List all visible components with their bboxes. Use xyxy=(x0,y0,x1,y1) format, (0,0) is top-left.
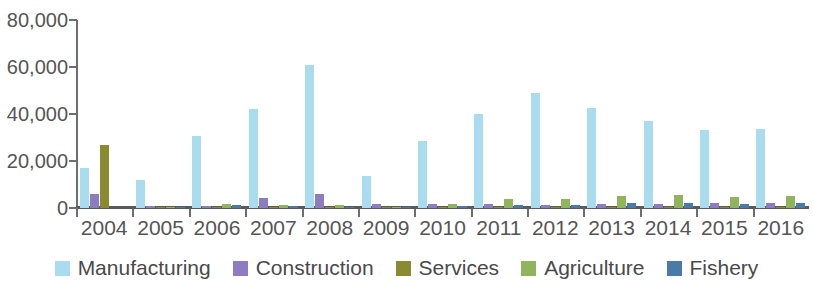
legend-swatch-icon xyxy=(521,261,536,276)
x-tick-label: 2007 xyxy=(250,216,297,240)
x-tick-mark xyxy=(471,209,473,217)
x-tick-mark xyxy=(640,209,642,217)
legend-label: Manufacturing xyxy=(78,256,211,280)
bar xyxy=(627,203,636,208)
bar xyxy=(551,207,560,208)
bar-group xyxy=(192,0,241,208)
bar xyxy=(664,207,673,208)
bar xyxy=(372,204,381,208)
bar xyxy=(345,207,354,208)
y-tick-label: 60,000 xyxy=(7,56,68,79)
bar-chart: 020,00040,00060,00080,000 20042005200620… xyxy=(0,0,813,284)
x-tick-mark xyxy=(76,209,78,217)
bar xyxy=(730,197,739,209)
bar-group xyxy=(531,0,580,208)
bar xyxy=(756,129,765,208)
legend-swatch-icon xyxy=(55,261,70,276)
bar xyxy=(766,203,775,208)
x-tick-label: 2004 xyxy=(81,216,128,240)
legend-item[interactable]: Agriculture xyxy=(521,256,644,280)
y-tick-mark xyxy=(69,66,77,68)
bar xyxy=(100,145,109,208)
bar xyxy=(80,168,89,208)
bar-group xyxy=(80,0,129,208)
bar xyxy=(494,207,503,208)
bar xyxy=(458,206,467,208)
legend-item[interactable]: Services xyxy=(396,256,500,280)
x-tick-mark xyxy=(302,209,304,217)
legend-item[interactable]: Fishery xyxy=(667,256,759,280)
bar xyxy=(428,204,437,208)
bar xyxy=(362,176,371,208)
x-tick-label: 2005 xyxy=(137,216,184,240)
x-tick-mark xyxy=(527,209,529,217)
bar xyxy=(740,204,749,208)
bars-layer xyxy=(76,0,809,208)
bar-group xyxy=(644,0,693,208)
x-tick-label: 2008 xyxy=(306,216,353,240)
bar xyxy=(222,204,231,208)
bar xyxy=(700,130,709,208)
bar xyxy=(315,194,324,208)
bar xyxy=(561,199,570,208)
bar xyxy=(720,207,729,208)
bar xyxy=(571,205,580,208)
bar xyxy=(776,207,785,208)
bar-group xyxy=(587,0,636,208)
x-tick-label: 2016 xyxy=(757,216,804,240)
bar xyxy=(474,114,483,208)
y-axis: 020,00040,00060,00080,000 xyxy=(0,0,76,250)
bar xyxy=(617,196,626,208)
x-tick-label: 2011 xyxy=(476,216,521,240)
bar xyxy=(597,204,606,208)
bar-group xyxy=(474,0,523,208)
x-tick-mark xyxy=(132,209,134,217)
bar-group xyxy=(418,0,467,208)
y-tick-mark xyxy=(69,19,77,21)
bar xyxy=(786,196,795,208)
bar xyxy=(249,109,258,208)
bar xyxy=(484,204,493,208)
legend-label: Agriculture xyxy=(544,256,644,280)
bar-group xyxy=(362,0,411,208)
x-tick-label: 2013 xyxy=(588,216,635,240)
bar xyxy=(448,204,457,208)
bar xyxy=(654,204,663,208)
legend-label: Services xyxy=(419,256,500,280)
bar xyxy=(587,108,596,208)
x-tick-mark xyxy=(414,209,416,217)
bar xyxy=(176,207,185,208)
bar-group xyxy=(249,0,298,208)
bar xyxy=(438,207,447,208)
x-tick-label: 2010 xyxy=(419,216,466,240)
bar xyxy=(382,207,391,208)
bar xyxy=(504,199,513,208)
x-tick-mark xyxy=(358,209,360,217)
legend-item[interactable]: Construction xyxy=(233,256,374,280)
legend-label: Fishery xyxy=(690,256,759,280)
y-tick-label: 40,000 xyxy=(7,103,68,126)
bar xyxy=(305,65,314,208)
y-tick-label: 20,000 xyxy=(7,150,68,173)
x-tick-label: 2012 xyxy=(532,216,579,240)
x-tick-mark xyxy=(753,209,755,217)
legend-item[interactable]: Manufacturing xyxy=(55,256,211,280)
bar xyxy=(232,205,241,208)
bar xyxy=(90,194,99,208)
bar xyxy=(335,205,344,208)
x-tick-mark xyxy=(696,209,698,217)
y-tick-mark xyxy=(69,160,77,162)
bar xyxy=(259,198,268,208)
x-tick-label: 2014 xyxy=(645,216,692,240)
bar xyxy=(289,206,298,208)
bar xyxy=(279,205,288,208)
x-tick-mark xyxy=(245,209,247,217)
x-tick-label: 2006 xyxy=(194,216,241,240)
chart-legend: ManufacturingConstructionServicesAgricul… xyxy=(0,252,813,284)
bar xyxy=(531,93,540,208)
plot-area: 020,00040,00060,00080,000 20042005200620… xyxy=(0,0,813,250)
bar xyxy=(607,207,616,208)
bar xyxy=(202,206,211,208)
bar xyxy=(418,141,427,208)
bar-group xyxy=(305,0,354,208)
